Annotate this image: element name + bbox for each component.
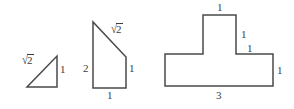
label-shape3-stem-right: 1	[241, 29, 247, 40]
label-shape3-right: 1	[277, 65, 283, 76]
label-shape3-shoulder: 1	[247, 43, 253, 54]
label-shape2-left: 2	[83, 63, 89, 74]
label-shape1-vertical: 1	[60, 64, 66, 75]
label-shape3-bottom: 3	[216, 90, 222, 101]
label-shape2-bottom: 1	[107, 90, 113, 101]
label-shape2-slant: √2	[111, 23, 123, 35]
geometry-figure: √2 1 √2 2 1 1 1 1 1 1 3	[0, 0, 294, 109]
label-shape1-hypotenuse-value: 2	[27, 54, 34, 66]
shapes-canvas	[0, 0, 294, 109]
label-shape2-right: 1	[129, 63, 135, 74]
label-shape3-top: 1	[217, 2, 223, 13]
label-shape1-hypotenuse: √2	[22, 54, 34, 66]
t-shape-outline	[165, 15, 273, 86]
label-shape2-slant-value: 2	[116, 23, 123, 35]
